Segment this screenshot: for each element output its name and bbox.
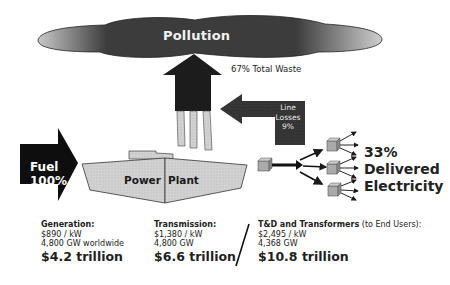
transmission-cost-block: Transmission: $1,380 / kW 4,800 GW $6.6 … [154, 220, 236, 264]
generation-capacity: 4,800 GW worldwide [41, 239, 124, 249]
delivered-percent: 33% [364, 144, 443, 161]
transmission-total: $6.6 trillion [154, 249, 236, 264]
transmission-heading: Transmission: [154, 220, 236, 230]
transmission-capacity: 4,800 GW [154, 239, 236, 249]
line-losses-percent: 9% [271, 122, 305, 132]
smokestacks [177, 111, 212, 150]
td-transformers-cost-block: T&D and Transformers (to End Users): $2,… [258, 220, 421, 264]
heading-text: Generation: [41, 220, 94, 229]
source-box-icon [258, 158, 272, 171]
transmission-rate: $1,380 / kW [154, 230, 236, 240]
transformer-box-icon [327, 138, 340, 151]
fuel-title: Fuel [30, 160, 67, 174]
heading-text: T&D and Transformers [258, 220, 359, 229]
power-plant [82, 151, 247, 203]
td-heading: T&D and Transformers (to End Users): [258, 220, 421, 230]
heading-subtext: (to End Users): [359, 220, 421, 229]
fuel-label: Fuel 100% [30, 160, 67, 188]
waste-up-arrow [163, 54, 222, 111]
divider-slash [236, 224, 249, 266]
transformer-box-icon [327, 161, 340, 174]
generation-heading: Generation: [41, 220, 124, 230]
delivered-line2: Delivered [364, 161, 443, 178]
fuel-percent: 100% [30, 174, 67, 188]
transformer-box-icon [328, 183, 341, 196]
generation-total: $4.2 trillion [41, 249, 124, 264]
delivered-line3: Electricity [364, 178, 443, 195]
pollution-label: Pollution [163, 28, 230, 43]
total-waste-label: 67% Total Waste [231, 64, 301, 74]
td-total: $10.8 trillion [258, 249, 421, 264]
line-losses-line1: Line [271, 103, 305, 113]
line-losses-line2: Losses [271, 113, 305, 123]
distribution-network [258, 132, 358, 200]
delivered-electricity-label: 33% Delivered Electricity [364, 144, 443, 195]
td-capacity: 4,368 GW [258, 239, 421, 249]
heading-text: Transmission: [154, 220, 216, 229]
generation-rate: $890 / kW [41, 230, 124, 240]
power-plant-label-word1: Power [124, 174, 161, 186]
td-rate: $2,495 / kW [258, 230, 421, 240]
generation-cost-block: Generation: $890 / kW 4,800 GW worldwide… [41, 220, 124, 264]
power-plant-label-word2: Plant [168, 174, 199, 186]
end-user-arrows [340, 132, 358, 200]
line-losses-label: Line Losses 9% [271, 103, 305, 132]
